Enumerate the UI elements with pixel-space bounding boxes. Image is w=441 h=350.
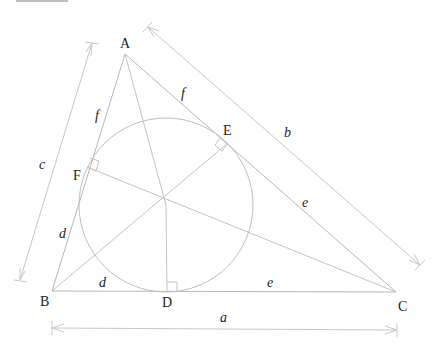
side-AC	[125, 54, 396, 292]
bisector-C	[87, 167, 396, 292]
side-AB	[52, 54, 125, 291]
label-F: F	[73, 168, 81, 183]
label-side-b: b	[284, 125, 291, 140]
radius-D	[166, 205, 167, 292]
label-B: B	[40, 294, 49, 309]
label-A: A	[120, 36, 131, 51]
label-segment-AF: f	[95, 108, 101, 123]
bisector-A	[125, 54, 166, 205]
label-side-c: c	[39, 157, 46, 172]
dimension-c	[20, 43, 92, 280]
label-segment-CE: e	[302, 195, 308, 210]
label-E: E	[223, 123, 232, 138]
label-segment-BD: d	[99, 275, 107, 290]
label-segment-BF: d	[59, 226, 67, 241]
label-side-a: a	[220, 310, 227, 325]
tick-c-bottom	[14, 280, 27, 282]
label-segment-AE: f	[181, 86, 187, 101]
side-BC	[52, 291, 396, 292]
bisector-B	[52, 143, 228, 291]
arrowhead-c-bottom	[20, 268, 25, 280]
label-segment-CD: e	[267, 275, 273, 290]
incircle-diagram: A B C D E F a b c f f d d e e	[0, 0, 441, 350]
right-angle-D	[167, 282, 177, 292]
dimension-a	[52, 328, 397, 330]
dimension-b	[148, 27, 420, 265]
label-D: D	[162, 295, 172, 310]
label-C: C	[398, 299, 407, 314]
